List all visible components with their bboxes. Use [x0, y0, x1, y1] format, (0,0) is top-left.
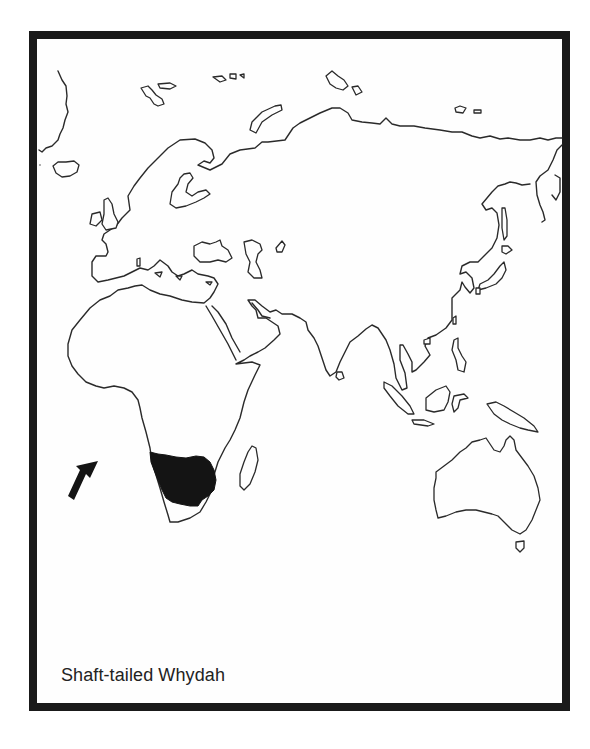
- crete-cyprus: [176, 276, 212, 285]
- aral-sea: [276, 241, 285, 252]
- sumatra: [384, 382, 414, 414]
- range-map: [0, 0, 590, 749]
- tasmania: [516, 541, 524, 552]
- great-britain: [102, 198, 118, 230]
- hainan: [424, 338, 430, 344]
- red-sea: [206, 306, 240, 360]
- new-siberian-islands: [455, 106, 481, 113]
- caspian-sea: [244, 240, 262, 278]
- black-sea: [194, 240, 232, 262]
- svalbard-east: [158, 83, 176, 89]
- philippines: [452, 338, 466, 372]
- ireland: [90, 212, 102, 226]
- severnaya-zemlya: [326, 71, 348, 90]
- taiwan: [453, 316, 456, 324]
- honshu: [478, 262, 506, 290]
- map-title: Shaft-tailed Whydah: [61, 665, 225, 686]
- novaya-zemlya: [250, 105, 282, 133]
- species-range: [150, 452, 216, 506]
- severnaya-zemlya-2: [352, 86, 362, 95]
- sakhalin: [502, 208, 507, 240]
- borneo: [426, 386, 450, 412]
- sulawesi: [452, 394, 468, 412]
- baltic-sea: [170, 173, 210, 208]
- franz-josef-land: [213, 74, 244, 82]
- java: [412, 420, 434, 426]
- greenland-coast: [39, 71, 68, 152]
- sicily: [155, 272, 162, 277]
- iceland: [53, 161, 79, 177]
- madagascar: [240, 446, 258, 490]
- hokkaido: [502, 246, 512, 254]
- sardinia-corsica: [137, 258, 140, 266]
- arrow-icon: [68, 461, 98, 500]
- kyushu: [476, 288, 480, 294]
- new-guinea: [487, 402, 538, 432]
- sri-lanka: [336, 372, 344, 380]
- svalbard: [141, 86, 164, 106]
- australia: [434, 436, 540, 534]
